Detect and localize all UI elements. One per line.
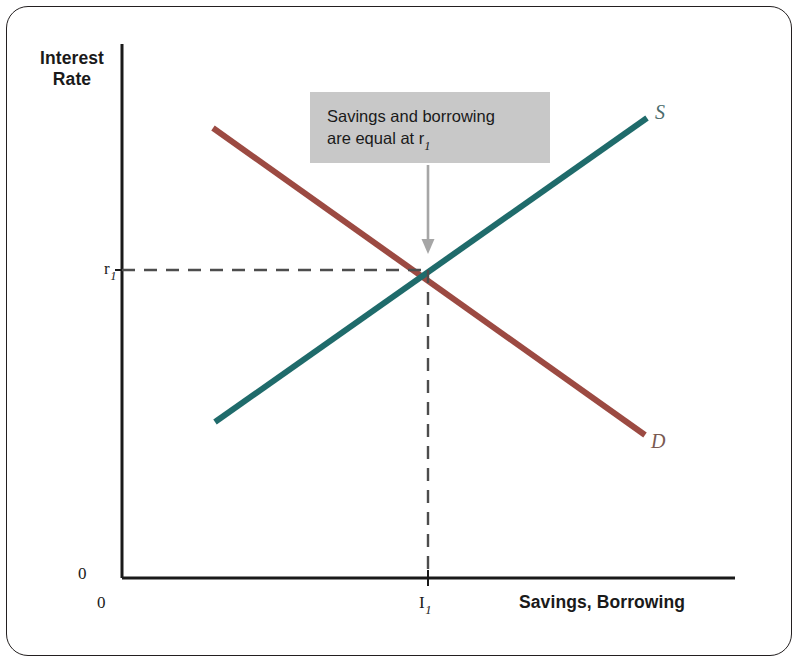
y-axis-title-line-2: Rate bbox=[53, 69, 91, 89]
annotation-callout-box: Savings and borrowing are equal at r1 bbox=[310, 92, 550, 163]
annotation-line-2-subscript: 1 bbox=[424, 139, 430, 153]
tick-label-i-subscript: 1 bbox=[425, 603, 431, 617]
tick-label-r-subscript: 1 bbox=[110, 269, 116, 283]
annotation-callout-text: Savings and borrowing are equal at r1 bbox=[327, 105, 495, 155]
x-axis-title: Savings, Borrowing bbox=[519, 592, 685, 613]
annotation-arrow-head bbox=[422, 239, 435, 254]
y-axis-title: InterestRate bbox=[30, 48, 114, 90]
demand-curve-label: D bbox=[651, 430, 665, 453]
supply-curve-label: S bbox=[655, 101, 665, 124]
tick-label-i-base: I bbox=[419, 593, 425, 612]
y-axis-title-line-1: Interest bbox=[40, 48, 104, 68]
x-axis-origin-label: 0 bbox=[97, 593, 106, 613]
y-axis-origin-label: 0 bbox=[78, 564, 87, 584]
tick-label-r-base: r bbox=[104, 259, 110, 278]
economics-chart: Savings and borrowing are equal at r1 In… bbox=[0, 0, 802, 665]
annotation-line-2-prefix: are equal at r bbox=[327, 129, 424, 147]
y-axis-tick-label-r1: r1 bbox=[104, 259, 116, 282]
x-axis-tick-label-i1: I1 bbox=[419, 593, 431, 616]
annotation-line-1: Savings and borrowing bbox=[327, 107, 495, 125]
